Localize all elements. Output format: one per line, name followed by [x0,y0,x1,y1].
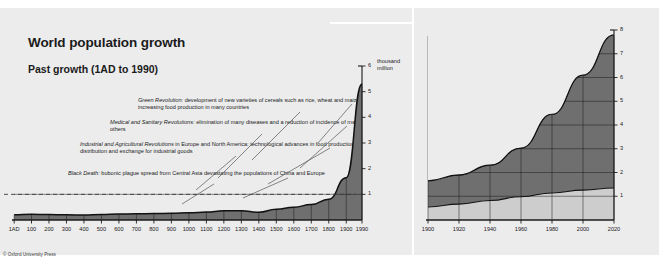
left-panel: World population growth Past growth (1AD… [0,8,412,255]
left-y-tick-label: 5 [368,88,371,94]
copyright-footer: © Oxford University Press [3,252,56,257]
past-growth-chart [0,8,412,255]
bottom-white-margin [0,255,659,263]
annotation-leader-line [268,148,330,184]
right-y-tick-label: 8 [620,26,623,32]
right-x-tick-label: 1940 [478,226,502,232]
left-y-tick-label: 4 [368,113,371,119]
right-y-tick-label: 4 [620,121,623,127]
past-growth-curve [14,84,362,215]
right-x-tick-label: 1920 [447,226,471,232]
left-x-tick-label: 1990 [350,226,374,232]
right-y-tick-label: 1 [620,192,623,198]
title-connector-line [330,22,414,24]
annotation-leader-line [218,134,262,178]
past-growth-area [14,84,362,220]
right-y-tick-label: 7 [620,50,623,56]
right-x-tick-label: 2020 [602,226,626,232]
left-y-tick-label: 3 [368,139,371,145]
annotation-leader-line [252,112,300,160]
top-white-margin [0,0,659,8]
right-x-tick-label: 1900 [416,226,440,232]
right-y-tick-label: 3 [620,145,623,151]
right-y-tick-label: 6 [620,74,623,80]
right-x-tick-label: 1960 [509,226,533,232]
poster-root: World population growth Past growth (1AD… [0,0,659,263]
annotation-leader-line [196,156,236,190]
right-x-tick-label: 2000 [571,226,595,232]
annotation-leader-line [243,178,288,198]
right-y-tick-label: 2 [620,169,623,175]
right-panel: Recent growth (1900 to 1990), projected … [414,8,659,255]
left-y-tick-label: 1 [368,190,371,196]
right-y-tick-label: 5 [620,97,623,103]
left-y-tick-label: 6 [368,62,371,68]
recent-growth-chart [414,8,659,255]
right-x-tick-label: 1980 [540,226,564,232]
left-y-tick-label: 2 [368,165,371,171]
